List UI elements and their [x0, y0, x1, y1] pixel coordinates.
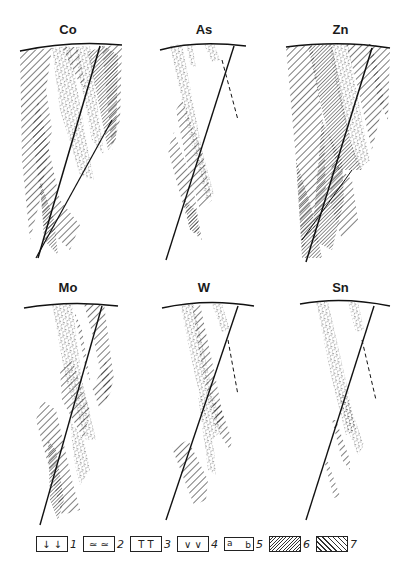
legend-number: 1 [70, 538, 77, 551]
mo-cross-section [0, 270, 136, 532]
legend-number: 3 [164, 538, 171, 551]
legend-item-1: ↓ ↓ 1 [36, 536, 77, 552]
legend-number: 5 [256, 538, 263, 551]
legend-item-5: a b 5 [224, 537, 263, 551]
as-cross-section [136, 0, 272, 265]
panel-co: Co [0, 0, 136, 265]
legend-item-7: 7 [316, 536, 357, 552]
legend-item-3: T T 3 [130, 536, 171, 552]
legend-symbol-tilde-dots: ≃ ≃ [83, 536, 115, 552]
legend-symbol-arrows: ↓ ↓ [36, 536, 68, 552]
legend-number: 7 [350, 538, 357, 551]
co-cross-section [0, 0, 136, 265]
legend: ↓ ↓ 1 ≃ ≃ 2 T T 3 ∨ ∨ 4 a b 5 6 7 [36, 536, 363, 552]
legend-symbol-ab-dashed: a b [224, 537, 254, 551]
zn-cross-section [272, 0, 409, 265]
legend-item-2: ≃ ≃ 2 [83, 536, 124, 552]
panel-w: W [136, 270, 272, 532]
legend-number: 6 [303, 538, 310, 551]
panel-zn: Zn [272, 0, 409, 265]
legend-symbol-v: ∨ ∨ [177, 536, 209, 552]
legend-symbol-b: b [245, 540, 251, 550]
panel-as: As [136, 0, 272, 265]
panel-sn: Sn [272, 270, 409, 532]
legend-symbol-t: T T [130, 536, 162, 552]
panel-mo: Mo [0, 270, 136, 532]
sn-cross-section [272, 270, 409, 532]
legend-number: 2 [117, 538, 124, 551]
w-cross-section [136, 270, 272, 532]
legend-item-6: 6 [269, 536, 310, 552]
legend-number: 4 [211, 538, 218, 551]
legend-symbol-fine-hatch [269, 536, 301, 552]
legend-item-4: ∨ ∨ 4 [177, 536, 218, 552]
legend-symbol-a: a [227, 538, 233, 548]
legend-symbol-coarse-hatch [316, 536, 348, 552]
